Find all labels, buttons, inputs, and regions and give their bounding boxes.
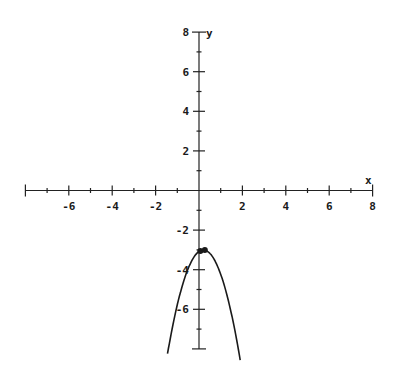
x-tick-label: -4 — [106, 200, 120, 213]
x-tick-label: 4 — [282, 200, 289, 213]
y-tick-label: 8 — [182, 26, 189, 39]
x-tick-label: 2 — [239, 200, 246, 213]
x-axis-label: x — [365, 174, 372, 187]
vertex-dot — [202, 247, 208, 253]
x-tick-label: -2 — [149, 200, 162, 213]
axes — [25, 32, 372, 349]
y-tick-label: 2 — [182, 145, 189, 158]
x-tick-label: 8 — [369, 200, 376, 213]
x-tick-label: 6 — [326, 200, 333, 213]
x-tick-label: -6 — [62, 200, 76, 213]
parabola-plot: -6-4-224688642-2-4-6 x y — [0, 0, 397, 379]
y-axis-label: y — [206, 27, 213, 40]
y-tick-label: 6 — [182, 66, 189, 79]
y-tick-label: 4 — [182, 105, 189, 118]
y-tick-label: -2 — [176, 224, 189, 237]
tick-labels: -6-4-224688642-2-4-6 — [62, 26, 376, 316]
